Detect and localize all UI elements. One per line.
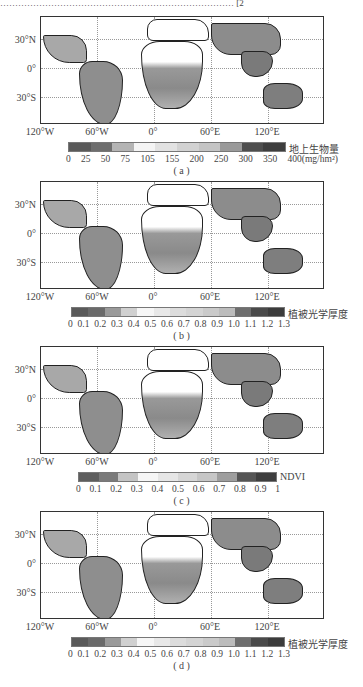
colorbar-bin: [121, 308, 137, 316]
longitude-label: 60°W: [77, 126, 117, 137]
colorbar-tick-label: 0.9: [211, 649, 223, 659]
longitude-label: 60°W: [77, 291, 117, 302]
colorbar-tick-label: 0.6: [193, 484, 205, 494]
colorbar-tick-label: 0: [68, 319, 73, 329]
figure-panel-b: 30°N0°30°S120°W60°W0°60°E120°E植被光学厚度00.1…: [0, 175, 363, 340]
longitude-label: 60°W: [77, 456, 117, 467]
colorbar-tick-label: 200: [189, 154, 203, 164]
colorbar-tick-labels: 00.10.20.30.40.50.60.70.80.91: [76, 484, 280, 494]
colorbar-tick-label: 75: [121, 154, 131, 164]
south-america-landmass: [79, 61, 123, 124]
colorbar-tick-label: 0.9: [255, 484, 267, 494]
colorbar-tick-label: 0.2: [110, 484, 122, 494]
colorbar-bin: [154, 638, 170, 646]
colorbar-tick-label: 0.4: [151, 484, 163, 494]
europe-landmass: [147, 184, 209, 206]
colorbar-tick-label: 0.8: [234, 484, 246, 494]
colorbar-bin: [79, 473, 99, 481]
africa-landmass: [141, 206, 203, 274]
latitude-label: 30°N: [0, 364, 36, 375]
figure-panel-d: 30°N0°30°S120°W60°W0°60°E120°E植被光学厚度00.1…: [0, 505, 363, 670]
colorbar-bin: [137, 638, 153, 646]
colorbar-bin: [251, 638, 267, 646]
longitude-label: 120°E: [247, 456, 287, 467]
africa-landmass: [141, 41, 203, 109]
colorbar-tick-label: 0.5: [144, 649, 156, 659]
colorbar-tick-label: 25: [81, 154, 91, 164]
south-america-landmass: [79, 391, 123, 454]
colorbar-bin: [134, 143, 156, 151]
australia-landmass: [263, 413, 303, 439]
latitude-label: 30°S: [0, 92, 36, 103]
north-america-landmass: [43, 35, 87, 63]
colorbar-bin: [268, 638, 284, 646]
europe-landmass: [147, 514, 209, 536]
colorbar-bin: [220, 143, 242, 151]
longitude-label: 60°E: [190, 621, 230, 632]
longitude-label: 120°W: [20, 621, 60, 632]
australia-landmass: [263, 83, 303, 109]
longitude-label: 60°E: [190, 456, 230, 467]
colorbar-variable-label: 植被光学厚度: [288, 306, 348, 321]
colorbar-tick-label: 0.1: [90, 484, 102, 494]
latitude-label: 30°S: [0, 587, 36, 598]
latitude-label: 0°: [0, 558, 36, 569]
colorbar-bin: [121, 638, 137, 646]
latitude-label: 30°N: [0, 199, 36, 210]
colorbar-variable-label: 植被光学厚度: [288, 636, 348, 651]
colorbar-tick-label: 0.7: [178, 649, 190, 659]
longitude-label: 0°: [133, 621, 173, 632]
colorbar-bin: [105, 638, 121, 646]
australia-landmass: [263, 248, 303, 274]
colorbar-tick-label: 105: [140, 154, 154, 164]
colorbar-bin: [219, 638, 235, 646]
longitude-label: 0°: [133, 456, 173, 467]
colorbar: [68, 142, 286, 152]
europe-landmass: [147, 19, 209, 41]
colorbar-tick-label: 0.7: [178, 319, 190, 329]
colorbar-tick-label: 0.9: [211, 319, 223, 329]
colorbar-tick-label: 0.3: [111, 319, 123, 329]
colorbar-tick-label: 0.5: [172, 484, 184, 494]
colorbar-bin: [251, 308, 267, 316]
colorbar-bin: [69, 143, 91, 151]
colorbar-bin: [268, 308, 284, 316]
colorbar-bin: [186, 638, 202, 646]
colorbar-bin: [158, 473, 178, 481]
colorbar-bin: [137, 308, 153, 316]
colorbar: [78, 472, 277, 482]
colorbar-tick-labels: 0255075105155200250300350400(mg/hm²): [66, 154, 338, 164]
colorbar-bin: [242, 143, 264, 151]
figure-panel-c: 30°N0°30°S120°W60°W0°60°E120°ENDVI00.10.…: [0, 340, 363, 505]
north-america-landmass: [43, 365, 87, 393]
latitude-label: 0°: [0, 393, 36, 404]
colorbar-tick-label: 50: [101, 154, 111, 164]
colorbar-bin: [88, 638, 104, 646]
europe-landmass: [147, 349, 209, 371]
latitude-label: 30°N: [0, 529, 36, 540]
longitude-label: 0°: [133, 291, 173, 302]
colorbar-tick-label: 0.8: [195, 319, 207, 329]
colorbar-bin: [155, 143, 177, 151]
colorbar-tick-label: 0.7: [213, 484, 225, 494]
longitude-label: 120°E: [247, 621, 287, 632]
colorbar-tick-label: 250: [214, 154, 228, 164]
colorbar-bin: [263, 143, 285, 151]
colorbar: [71, 637, 285, 647]
colorbar-tick-labels: 00.10.20.30.40.50.60.70.80.91.01.11.21.3: [68, 649, 290, 659]
colorbar-bin: [237, 473, 257, 481]
colorbar-tick-label: 400(mg/hm²): [288, 154, 338, 164]
north-america-landmass: [43, 530, 87, 558]
colorbar-bin: [170, 308, 186, 316]
north-america-landmass: [43, 200, 87, 228]
colorbar-tick-label: 0.6: [161, 319, 173, 329]
colorbar-tick-label: 350: [263, 154, 277, 164]
colorbar-bin: [88, 308, 104, 316]
colorbar-tick-label: 0.5: [144, 319, 156, 329]
colorbar-tick-label: 0.4: [128, 649, 140, 659]
colorbar-tick-label: 1.0: [228, 649, 240, 659]
colorbar-bin: [105, 308, 121, 316]
longitude-label: 120°W: [20, 126, 60, 137]
world-map: [40, 511, 324, 619]
latitude-label: 30°S: [0, 257, 36, 268]
